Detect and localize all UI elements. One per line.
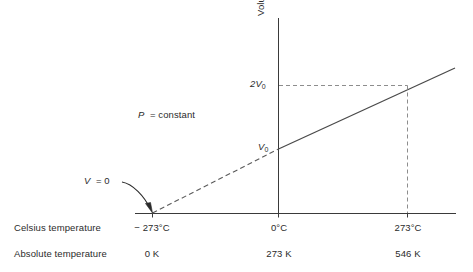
x-tick-label-celsius-273: 273°C <box>394 222 421 233</box>
annotation-pressure-symbol: P <box>138 109 144 120</box>
annotation-volume-zero-rest: = 0 <box>96 175 110 186</box>
y-tick-label-v0-subscript: 0 <box>264 146 268 153</box>
measured-volume-line <box>279 68 456 149</box>
y-axis-title: Volume <box>255 0 266 16</box>
annotation-pressure-rest: = constant <box>150 109 195 120</box>
annotation-pressure-constant: P = constant <box>138 110 195 120</box>
y-tick-label-v0: V0 <box>258 142 268 154</box>
annotation-volume-zero-symbol: V <box>84 175 90 186</box>
x-tick-label-kelvin-273: 273 K <box>266 248 291 259</box>
x-tick-label-kelvin-546: 546 K <box>395 248 420 259</box>
x-tick-label-kelvin-0: 0 K <box>145 248 160 259</box>
y-tick-label-2v0: 2V0 <box>250 79 266 91</box>
x-tick-label-celsius-minus-273: − 273°C <box>134 222 169 233</box>
axis-row-label-celsius: Celsius temperature <box>14 222 101 233</box>
annotation-volume-zero: V = 0 <box>84 176 110 186</box>
y-tick-label-2v0-subscript: 0 <box>262 83 266 90</box>
axis-row-label-absolute: Absolute temperature <box>14 248 107 259</box>
y-tick-label-2v0-symbol: 2V <box>250 78 262 89</box>
charles-law-volume-temperature-figure: Volume 2V0 V0 P = constant V = 0 Celsius… <box>0 0 473 272</box>
x-tick-label-celsius-0: 0°C <box>271 222 287 233</box>
v-zero-arrow-head <box>146 203 153 214</box>
extrapolated-volume-line <box>153 149 279 213</box>
